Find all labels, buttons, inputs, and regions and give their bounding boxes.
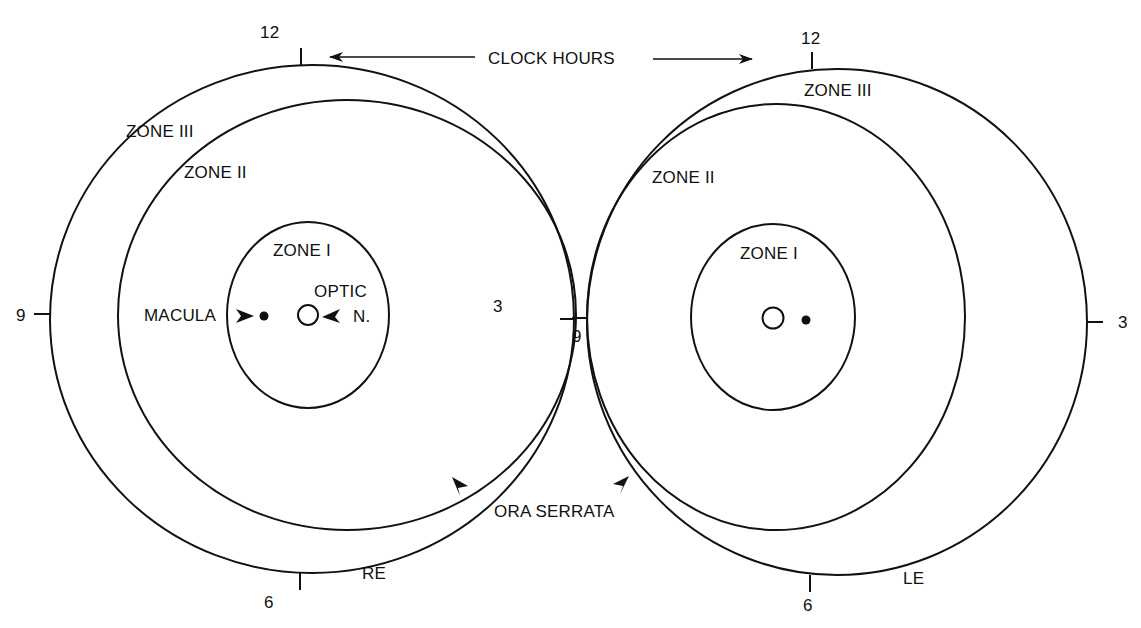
re-eye-label: RE [362,565,386,582]
re-zone2-label: ZONE II [184,164,247,181]
clock-hours-label: CLOCK HOURS [488,50,615,67]
le-zone1-label: ZONE I [740,245,798,262]
re-macula-label: MACULA [144,307,216,324]
le-zone3-label: ZONE III [804,82,872,99]
re-optic-n-label: N. [353,308,370,325]
re-optic-arrowhead-icon [322,309,340,323]
re-macula-arrowhead-icon [236,309,254,323]
left-eye-diagram [572,52,1103,592]
re-clock-12-label: 12 [260,24,279,41]
le-ora-serrata-arrowhead-icon [613,476,629,494]
re-zone3-label: ZONE III [126,123,194,140]
re-optic-nerve-icon [298,305,318,325]
le-ora-serrata-circle [587,69,1087,575]
re-ora-serrata-arrowhead-icon [452,477,468,496]
le-clock-6-label: 6 [803,597,813,614]
re-clock-3-label: 3 [493,298,503,315]
le-clock-12-label: 12 [801,30,820,47]
re-macula-dot-icon [260,312,269,321]
re-clock-9-label: 9 [16,307,26,324]
re-optic-label: OPTIC [314,283,367,300]
le-zone2-label: ZONE II [652,169,715,186]
le-optic-nerve-icon [763,308,784,329]
le-clock-9-label: 9 [572,328,582,345]
le-eye-label: LE [903,570,924,587]
ora-serrata-label: ORA SERRATA [494,503,615,520]
le-zone2-boundary [587,104,965,530]
le-macula-dot-icon [802,316,811,325]
re-clock-6-label: 6 [264,594,274,611]
le-clock-3-label: 3 [1118,314,1128,331]
re-ora-serrata-circle [50,65,574,573]
re-zone1-label: ZONE I [273,242,331,259]
